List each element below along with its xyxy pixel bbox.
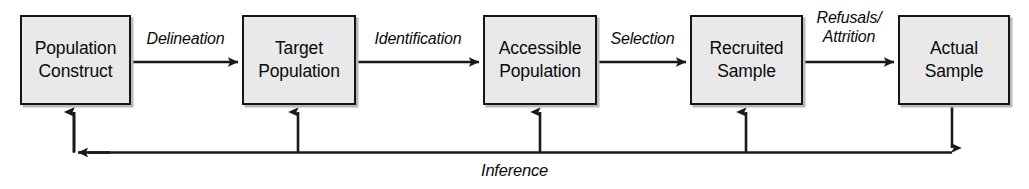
node-actual-sample[interactable]: Actual Sample <box>898 15 1010 105</box>
edge-label-inference: Inference <box>0 161 1029 180</box>
node-target-population-line2: Population <box>258 60 340 83</box>
edge-label-selection-line1: Selection <box>599 30 686 49</box>
node-population-construct[interactable]: Population Construct <box>20 15 131 105</box>
edge-label-delineation-line1: Delineation <box>133 30 238 49</box>
edge-label-refusals-attrition-line1: Refusals/ <box>801 9 897 28</box>
node-population-construct-line2: Construct <box>39 60 113 83</box>
node-recruited-sample-line1: Recruited <box>710 37 784 60</box>
node-actual-sample-line1: Actual <box>930 37 978 60</box>
node-target-population-line1: Target <box>275 37 323 60</box>
node-actual-sample-line2: Sample <box>925 60 984 83</box>
node-target-population[interactable]: Target Population <box>242 15 356 105</box>
edge-label-refusals-attrition-line2: Attrition <box>801 28 897 47</box>
node-accessible-population-line1: Accessible <box>499 37 582 60</box>
edge-label-identification: Identification <box>357 30 479 49</box>
diagram-canvas: Population Construct Target Population A… <box>0 0 1029 189</box>
edge-label-refusals-attrition: Refusals/ Attrition <box>801 9 897 47</box>
node-population-construct-line1: Population <box>35 37 117 60</box>
edge-label-inference-text: Inference <box>481 161 548 179</box>
edge-label-delineation: Delineation <box>133 30 238 49</box>
node-recruited-sample-line2: Sample <box>717 60 776 83</box>
node-accessible-population-line2: Population <box>499 60 581 83</box>
node-recruited-sample[interactable]: Recruited Sample <box>690 15 803 105</box>
edge-label-identification-line1: Identification <box>357 30 479 49</box>
edge-label-selection: Selection <box>599 30 686 49</box>
node-accessible-population[interactable]: Accessible Population <box>483 15 597 105</box>
